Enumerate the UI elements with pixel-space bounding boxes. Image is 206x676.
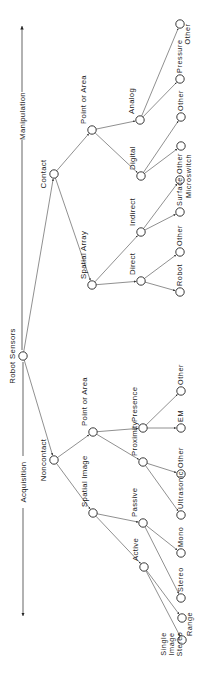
node-presence	[139, 424, 147, 432]
node-n-spatial-image	[89, 509, 97, 517]
edge-passive-to-stereo	[145, 527, 179, 594]
edge-indirect-to-surface	[145, 214, 176, 230]
label-digital-other: Other	[176, 90, 185, 111]
node-digital-other	[177, 113, 185, 121]
node-direct	[137, 277, 145, 285]
node-proximity	[139, 458, 147, 466]
edge-passive-to-mono	[146, 526, 177, 550]
node-robot	[176, 288, 184, 296]
label-digital: Digital	[128, 146, 137, 170]
node-noncontact	[50, 456, 58, 464]
node-direct-other	[176, 248, 184, 256]
node-microswitch	[177, 142, 185, 150]
edge-proximity-to-ultrasonic	[145, 465, 178, 511]
label-noncontact: Noncontact	[39, 438, 48, 481]
label-c-point-area: Point or Area	[79, 75, 88, 124]
edge-active-to-range	[147, 570, 180, 614]
label-analog: Analog	[127, 88, 136, 114]
node-n-point-area	[89, 428, 97, 436]
label-surface: Surface	[175, 177, 184, 206]
edge-digital-to-digital-other	[143, 121, 178, 173]
node-pressure	[176, 75, 184, 83]
edge-noncontact-to-n-point-area	[57, 435, 89, 458]
labels: ContactNoncontactPoint or AreaSpatial Ar…	[39, 24, 194, 657]
label-proximity-other: Other	[176, 447, 185, 468]
label-stereo: Stereo	[176, 567, 185, 592]
nodes	[50, 20, 186, 644]
edge-digital-to-microswitch	[144, 149, 177, 174]
label-microswitch: Microswitch	[184, 154, 193, 198]
node-stereo	[177, 594, 185, 602]
edge-direct-to-direct-other	[144, 255, 176, 279]
node-passive	[139, 519, 147, 527]
node-em	[177, 424, 185, 432]
edge-c-spatial-array-to-direct	[96, 281, 136, 284]
manipulation-label: Manipulation	[18, 92, 27, 140]
edge-proximity-to-proximity-other	[147, 463, 176, 472]
node-mono	[177, 549, 185, 557]
label-n-spatial-image: Spatial Image	[80, 455, 89, 507]
label-analog-other: Other	[183, 24, 192, 45]
root-label: Robot Sensors	[8, 328, 17, 383]
label-passive: Passive	[130, 488, 139, 517]
label-indirect-other: Other	[175, 153, 184, 174]
edge-analog-to-pressure	[143, 82, 177, 117]
label-contact: Contact	[39, 159, 48, 189]
edge-direct-to-robot	[145, 282, 175, 291]
label-direct-other: Other	[175, 225, 184, 246]
label-em: EM	[176, 410, 185, 422]
label-presence: Presence	[130, 387, 139, 422]
robot-sensors-tree-diagram: Manipulation Acquisition ContactNonconta…	[0, 0, 206, 676]
label-c-spatial-array: Spatial Array	[79, 231, 88, 279]
label-pressure: Pressure	[175, 39, 184, 73]
label-direct: Direct	[128, 252, 137, 275]
label-proximity: Proximity	[130, 421, 139, 456]
node-c-spatial-array	[88, 281, 96, 289]
label-indirect: Indirect	[128, 197, 137, 226]
node-contact	[50, 170, 58, 178]
node-presence-other	[177, 387, 185, 395]
node-analog	[136, 116, 144, 124]
node-indirect	[137, 228, 145, 236]
node-surface	[176, 208, 184, 216]
root-node-robot-sensors	[19, 352, 27, 360]
node-active	[140, 563, 148, 571]
label-n-point-area: Point or Area	[80, 377, 89, 426]
edge-analog-to-analog-other	[142, 28, 179, 116]
node-c-point-area	[88, 126, 96, 134]
edge-active-to-single-image-stereo	[146, 571, 180, 636]
edge-contact-to-c-point-area	[57, 134, 89, 171]
label-ultrasonic: Ultrasonic	[176, 471, 185, 509]
label-active: Active	[131, 538, 140, 561]
node-digital	[137, 172, 145, 180]
acquisition-label: Acquisition	[19, 461, 28, 502]
edge-robot-sensors-to-contact	[24, 179, 54, 352]
axis: Manipulation Acquisition	[18, 26, 28, 616]
label-mono: Mono	[176, 527, 185, 547]
edges	[24, 28, 180, 635]
label-presence-other: Other	[176, 364, 185, 385]
label-single-image-stereo-line-2: Stereo	[175, 632, 184, 657]
edge-presence-to-presence-other	[146, 394, 178, 425]
label-robot: Robot	[175, 264, 184, 286]
node-ultrasonic	[177, 511, 185, 519]
label-range: Range	[185, 612, 194, 636]
edge-c-point-area-to-analog	[96, 121, 135, 129]
